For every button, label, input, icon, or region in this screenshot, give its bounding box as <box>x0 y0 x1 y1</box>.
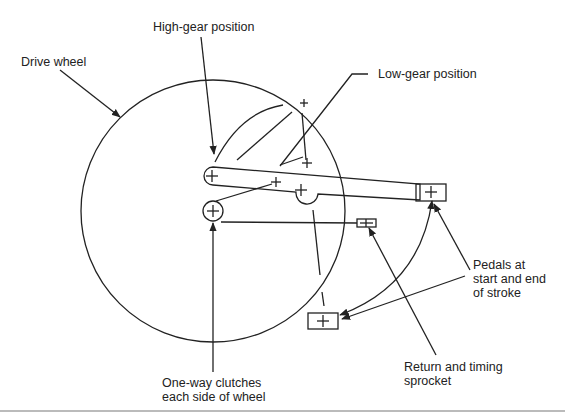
pedal-stroke-arc <box>340 201 432 315</box>
low-gear-arc <box>237 112 292 160</box>
label-low-gear: Low-gear position <box>378 67 477 81</box>
high-gear-arc <box>215 105 283 162</box>
pedals-leader-top <box>434 204 470 270</box>
plus-icon-arm-end <box>206 170 218 182</box>
high-gear-leader <box>201 37 214 154</box>
label-high-gear: High-gear position <box>153 20 254 34</box>
crank-arm <box>204 167 420 204</box>
clutch-line-1: One-way clutches <box>162 376 266 390</box>
pedals-leader-bottom <box>342 276 465 319</box>
pedals-line-2: start and end <box>473 272 546 286</box>
sprocket-line-1: Return and timing <box>404 360 503 374</box>
plus-icon-top <box>300 99 308 107</box>
label-pedals: Pedals at start and end of stroke <box>473 258 546 300</box>
plus-icon-notch <box>295 184 307 196</box>
plus-icon-pedal-top <box>425 186 437 198</box>
low-gear-leader <box>280 74 368 166</box>
plus-icon-mid <box>302 158 312 168</box>
clutch-line-2: each side of wheel <box>162 390 266 404</box>
plus-icon-pedal-bottom <box>317 315 329 327</box>
sprocket-line-2: sprocket <box>404 374 503 388</box>
rod-lower-2 <box>322 292 324 306</box>
plus-icon-clutch <box>207 205 219 217</box>
label-clutches: One-way clutches each side of wheel <box>162 376 266 404</box>
plus-icon-lower <box>271 177 281 187</box>
sprocket-leader <box>369 228 436 355</box>
rod-lower <box>313 210 320 275</box>
pedals-line-3: of stroke <box>473 286 546 300</box>
label-drive-wheel: Drive wheel <box>21 55 86 69</box>
label-sprocket: Return and timing sprocket <box>404 360 503 388</box>
pedals-line-1: Pedals at <box>473 258 546 272</box>
chain-line <box>221 222 357 223</box>
bottom-rule <box>0 410 565 412</box>
drive-wheel-leader <box>60 70 120 117</box>
